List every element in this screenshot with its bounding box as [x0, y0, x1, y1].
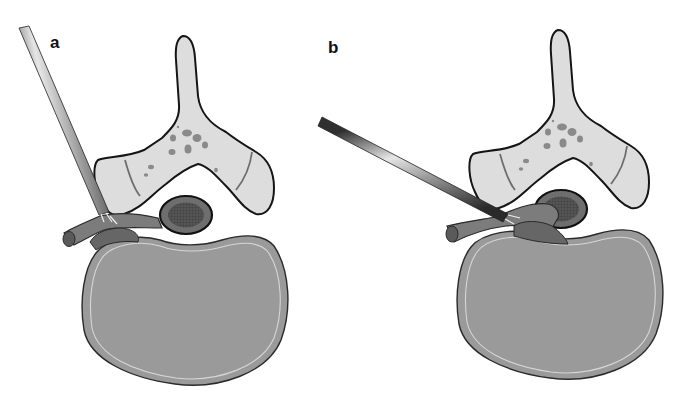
- figure: a b: [0, 0, 689, 400]
- panel-label-b: b: [328, 38, 338, 58]
- diagram-canvas: [0, 0, 689, 400]
- panel-b: [318, 30, 663, 379]
- panel-a: [19, 26, 288, 385]
- panel-label-a: a: [50, 33, 59, 53]
